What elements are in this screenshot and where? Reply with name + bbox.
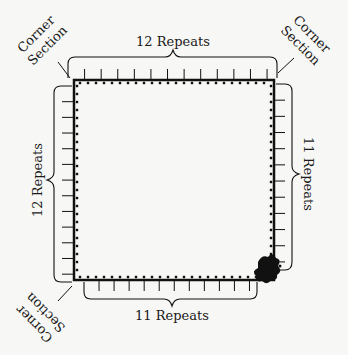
corner-leader-top-right <box>278 58 294 73</box>
corner-section-label-top-left: Corner Section <box>13 11 70 68</box>
right-brace <box>276 84 299 270</box>
left-repeats-label: 12 Repeats <box>30 143 45 217</box>
bottom-brace <box>84 282 257 306</box>
corner-section-label-bottom-left: Corner Section <box>11 289 68 346</box>
floral-corner-motif-icon <box>254 254 282 283</box>
square-frame <box>74 80 274 280</box>
right-repeats-label: 11 Repeats <box>301 137 316 211</box>
bead-edging <box>76 82 272 278</box>
top-repeats-label: 12 Repeats <box>136 34 210 49</box>
repeat-ticks <box>62 69 285 291</box>
left-brace <box>47 86 72 282</box>
bottom-repeats-label: 11 Repeats <box>135 308 209 323</box>
border-repeat-diagram: 12 Repeats 12 Repeats 11 Repeats 11 Repe… <box>0 0 348 355</box>
corner-leader-bottom-left <box>58 286 72 301</box>
top-brace <box>68 50 277 78</box>
corner-section-label-top-right: Corner Section <box>278 11 335 68</box>
